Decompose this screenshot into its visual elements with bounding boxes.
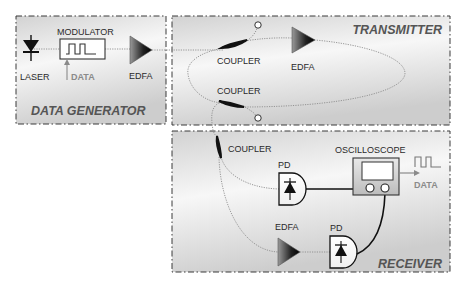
- edfa-label-receiver: EDFA: [275, 222, 299, 232]
- pd-top-label: PD: [278, 160, 291, 170]
- scope-input-2-icon: [381, 184, 389, 192]
- data-generator-title: DATA GENERATOR: [31, 104, 146, 118]
- pd-bottom-label: PD: [330, 223, 343, 233]
- modulator-label: MODULATOR: [57, 27, 114, 37]
- edfa-label-transmitter: EDFA: [291, 62, 315, 72]
- photodiode-bottom-icon: [330, 236, 357, 268]
- modulator-box: [60, 39, 105, 59]
- transmitter-title: TRANSMITTER: [352, 23, 442, 37]
- data-input-label: DATA: [71, 72, 95, 82]
- oscilloscope-label: OSCILLOSCOPE: [335, 145, 406, 155]
- coupler-top-label: COUPLER: [217, 56, 261, 66]
- coupler-bottom-label: COUPLER: [217, 86, 261, 96]
- terminator-bottom-icon: [255, 115, 261, 121]
- scope-input-1-icon: [366, 184, 374, 192]
- receiver-panel: RECEIVER: [172, 131, 450, 272]
- edfa-label-generator: EDFA: [129, 71, 153, 81]
- photodiode-top-icon: [279, 173, 306, 205]
- setup-diagram: DATA GENERATOR TRANSMITTER RECEIVER LASE…: [0, 0, 464, 286]
- receiver-title: RECEIVER: [378, 257, 442, 271]
- coupler-receiver-label: COUPLER: [228, 144, 272, 154]
- terminator-top-icon: [255, 22, 261, 28]
- oscilloscope-icon: [353, 158, 399, 195]
- laser-label: LASER: [20, 72, 50, 82]
- data-output-label: DATA: [414, 180, 438, 190]
